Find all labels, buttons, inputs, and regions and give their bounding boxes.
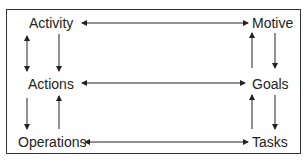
node-actions: Actions	[28, 76, 74, 92]
node-goals: Goals	[252, 76, 289, 92]
node-operations: Operations	[18, 134, 86, 150]
node-motive: Motive	[252, 15, 293, 31]
node-tasks: Tasks	[252, 134, 288, 150]
node-activity: Activity	[29, 15, 73, 31]
